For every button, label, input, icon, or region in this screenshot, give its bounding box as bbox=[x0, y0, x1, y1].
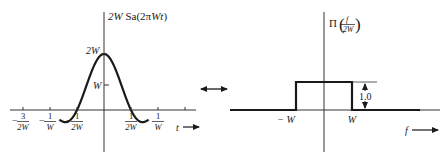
svg-text:1: 1 bbox=[48, 111, 52, 121]
svg-text:W: W bbox=[46, 122, 54, 132]
sinc-x-ticks: −32W−1W−12W12W1W bbox=[12, 107, 185, 132]
x-tick-label: 12W bbox=[125, 111, 138, 132]
rect-plot: Π ( f 2W ) 1.0 − W W f bbox=[230, 12, 440, 152]
fourier-pair-diagram: 2W Sa(2πWt) 2W W −32W−1W−12W12W1W t Π ( … bbox=[0, 0, 447, 158]
x-tick-label: −32W bbox=[12, 111, 30, 132]
x-tick-label-neg-w: − W bbox=[277, 114, 296, 125]
svg-text:1: 1 bbox=[129, 111, 133, 121]
f-axis-label: f bbox=[405, 125, 409, 136]
x-tick-label-w: W bbox=[348, 114, 358, 125]
svg-text:2W: 2W bbox=[343, 25, 355, 34]
svg-text:−: − bbox=[39, 115, 45, 126]
svg-text:2W: 2W bbox=[125, 122, 137, 132]
x-tick-label: −1W bbox=[39, 111, 56, 132]
rect-pulse bbox=[230, 82, 420, 110]
x-tick-label: 1W bbox=[152, 111, 164, 132]
svg-text:W: W bbox=[154, 122, 162, 132]
svg-text:1: 1 bbox=[156, 111, 160, 121]
y-tick-label-2w: 2W bbox=[86, 45, 101, 56]
rect-title: Π ( f 2W ) bbox=[329, 15, 361, 34]
sinc-plot: 2W Sa(2πWt) 2W W −32W−1W−12W12W1W t bbox=[10, 10, 199, 152]
svg-text:f: f bbox=[346, 15, 350, 24]
x-tick-label: −12W bbox=[66, 111, 84, 132]
svg-text:2W: 2W bbox=[17, 122, 29, 132]
svg-text:Π: Π bbox=[329, 17, 337, 29]
sinc-title: 2W Sa(2πWt) bbox=[108, 10, 167, 23]
svg-text:): ) bbox=[355, 15, 361, 34]
svg-text:3: 3 bbox=[21, 111, 25, 121]
amplitude-label: 1.0 bbox=[359, 91, 372, 102]
y-tick-label-w: W bbox=[93, 80, 103, 91]
svg-text:1: 1 bbox=[75, 111, 79, 121]
svg-text:2W: 2W bbox=[71, 122, 83, 132]
t-axis-label: t bbox=[176, 122, 179, 133]
